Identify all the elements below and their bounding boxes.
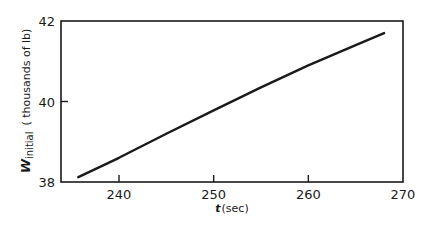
- y-axis-units: ( thousands of lb): [20, 29, 33, 126]
- y-axis-label: Winitial( thousands of lb): [18, 29, 35, 174]
- y-tick-label: 42: [38, 14, 55, 29]
- y-tick-label: 38: [38, 175, 55, 190]
- x-tick-label: 240: [107, 187, 132, 202]
- svg-text:Winitial( thousands of lb): Winitial( thousands of lb): [18, 29, 35, 174]
- y-axis-subscript: initial: [24, 132, 35, 160]
- data-line: [78, 33, 384, 177]
- x-axis-ticks: 240250260270: [107, 175, 416, 202]
- y-axis-ticks: 384042: [38, 14, 68, 190]
- chart: 384042 240250260270 t(sec) Winitial( tho…: [0, 0, 437, 230]
- svg-text:t(sec): t(sec): [215, 202, 248, 215]
- x-axis-label: t(sec): [215, 202, 248, 215]
- x-axis-units: (sec): [222, 202, 249, 215]
- x-tick-label: 260: [296, 187, 321, 202]
- x-axis-symbol: t: [215, 202, 221, 215]
- x-tick-label: 270: [391, 187, 416, 202]
- x-tick-label: 250: [201, 187, 226, 202]
- y-axis-symbol: W: [18, 158, 33, 173]
- y-tick-label: 40: [38, 95, 55, 110]
